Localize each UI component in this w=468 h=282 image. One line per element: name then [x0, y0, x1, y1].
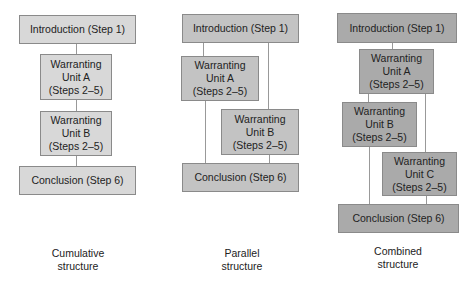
- cumulative-unit-b-box: Warranting Unit B (Steps 2–5): [40, 111, 112, 156]
- parallel-caption: Parallel structure: [187, 247, 297, 273]
- connector: [203, 43, 204, 57]
- combined-intro-box: Introduction (Step 1): [337, 13, 457, 43]
- parallel-conclusion-box: Conclusion (Step 6): [182, 163, 299, 192]
- cumulative-conclusion-box: Conclusion (Step 6): [19, 166, 136, 195]
- connector: [76, 43, 77, 54]
- combined-unit-b-box: Warranting Unit B (Steps 2–5): [342, 102, 417, 147]
- connector: [268, 43, 269, 110]
- parallel-intro-box: Introduction (Step 1): [182, 14, 299, 43]
- parallel-unit-a-box: Warranting Unit A (Steps 2–5): [181, 56, 259, 101]
- cumulative-caption: Cumulative structure: [23, 247, 133, 273]
- combined-unit-c-box: Warranting Unit C (Steps 2–5): [382, 152, 457, 196]
- connector: [76, 99, 77, 111]
- cumulative-unit-a-box: Warranting Unit A (Steps 2–5): [40, 54, 112, 100]
- connector: [369, 146, 370, 205]
- connector: [205, 100, 206, 164]
- combined-unit-a-box: Warranting Unit A (Steps 2–5): [359, 49, 434, 94]
- parallel-unit-b-box: Warranting Unit B (Steps 2–5): [221, 109, 299, 155]
- connector: [425, 93, 426, 153]
- combined-caption: Combined structure: [343, 245, 453, 271]
- cumulative-intro-box: Introduction (Step 1): [19, 15, 136, 44]
- combined-conclusion-box: Conclusion (Step 6): [338, 204, 459, 233]
